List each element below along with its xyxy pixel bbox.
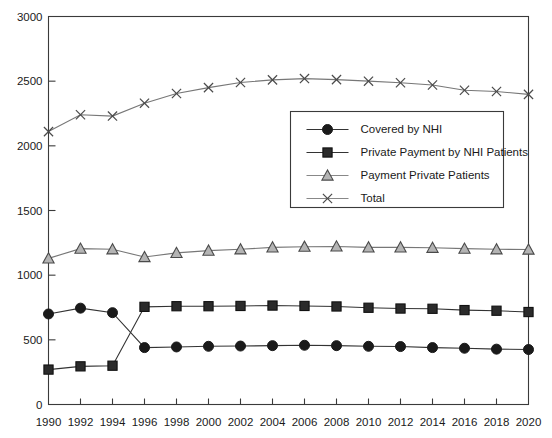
x-axis-tick-label: 2020 <box>516 416 542 428</box>
legend-label: Payment Private Patients <box>361 169 490 181</box>
data-point-circle-marker <box>236 341 246 351</box>
data-point-square-marker <box>323 148 332 157</box>
data-point-circle-marker <box>524 345 534 355</box>
data-point-circle-marker <box>172 342 182 352</box>
data-point-square-marker <box>364 303 373 312</box>
chart-legend: Covered by NHIPrivate Payment by NHI Pat… <box>291 112 529 208</box>
series-line <box>49 306 529 370</box>
y-axis-tick-label: 1000 <box>17 269 43 281</box>
data-point-circle-marker <box>396 342 406 352</box>
data-point-triangle-marker <box>43 253 54 263</box>
data-point-circle-marker <box>323 125 333 135</box>
chart-canvas: 050010001500200025003000 199019921994199… <box>0 0 552 438</box>
data-point-circle-marker <box>428 343 438 353</box>
data-point-square-marker <box>300 301 309 310</box>
legend-label: Private Payment by NHI Patients <box>361 146 529 158</box>
x-axis-tick-label: 2002 <box>228 416 254 428</box>
data-point-circle-marker <box>140 343 150 353</box>
data-point-square-marker <box>524 307 533 316</box>
data-point-x-marker <box>172 89 181 98</box>
data-point-square-marker <box>492 306 501 315</box>
y-axis-tick-label: 500 <box>23 334 42 346</box>
data-point-x-marker <box>140 99 149 108</box>
x-axis-tick-label: 2012 <box>388 416 414 428</box>
x-axis-tick-label: 1996 <box>132 416 158 428</box>
series-triangle <box>43 241 534 263</box>
series-line <box>49 308 529 349</box>
data-point-square-marker <box>172 302 181 311</box>
legend-entry[interactable]: Covered by NHI <box>307 123 443 135</box>
data-point-circle-marker <box>76 303 86 313</box>
data-point-square-marker <box>44 365 53 374</box>
data-point-square-marker <box>76 362 85 371</box>
x-axis-tick-label: 2014 <box>420 416 446 428</box>
data-point-circle-marker <box>204 341 214 351</box>
x-axis-tick-label: 1992 <box>68 416 94 428</box>
data-point-circle-marker <box>332 341 342 351</box>
data-point-square-marker <box>140 302 149 311</box>
data-point-circle-marker <box>364 341 374 351</box>
x-axis-tick-label: 2006 <box>292 416 318 428</box>
x-axis-tick-label: 1990 <box>36 416 62 428</box>
data-point-circle-marker <box>108 308 118 318</box>
y-axis-tick-group: 050010001500200025003000 <box>17 11 56 411</box>
x-axis-tick-label: 2004 <box>260 416 286 428</box>
x-axis-tick-label: 2000 <box>196 416 222 428</box>
data-point-circle-marker <box>460 343 470 353</box>
x-axis-tick-label: 1998 <box>164 416 190 428</box>
x-axis-tick-group: 1990199219941996199820002002200420062008… <box>36 399 542 428</box>
data-point-square-marker <box>268 301 277 310</box>
y-axis-tick-label: 2500 <box>17 75 43 87</box>
y-axis-tick-label: 2000 <box>17 140 43 152</box>
data-point-square-marker <box>204 302 213 311</box>
y-axis-tick-label: 0 <box>36 399 42 411</box>
legend-label: Covered by NHI <box>361 123 443 135</box>
data-point-circle-marker <box>492 344 502 354</box>
series-line <box>49 246 529 258</box>
data-point-circle-marker <box>268 341 278 351</box>
data-point-circle-marker <box>44 309 54 319</box>
data-point-square-marker <box>108 361 117 370</box>
x-axis-tick-label: 2010 <box>356 416 382 428</box>
x-axis-tick-label: 1994 <box>100 416 126 428</box>
data-point-square-marker <box>236 301 245 310</box>
data-point-square-marker <box>332 302 341 311</box>
x-axis-tick-label: 2008 <box>324 416 350 428</box>
data-point-square-marker <box>460 305 469 314</box>
y-axis-tick-label: 1500 <box>17 205 43 217</box>
data-point-square-marker <box>428 304 437 313</box>
legend-label: Total <box>361 192 385 204</box>
plot-frame <box>49 17 529 405</box>
line-chart: 050010001500200025003000 199019921994199… <box>0 0 552 438</box>
x-axis-tick-label: 2016 <box>452 416 478 428</box>
data-point-triangle-marker <box>75 243 86 253</box>
data-point-square-marker <box>396 304 405 313</box>
y-axis-tick-label: 3000 <box>17 11 43 23</box>
x-axis-tick-label: 2018 <box>484 416 510 428</box>
data-point-circle-marker <box>300 340 310 350</box>
